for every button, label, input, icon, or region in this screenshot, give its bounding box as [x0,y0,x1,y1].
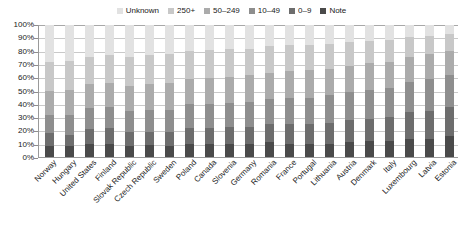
bar-segment [45,133,54,146]
bar-column[interactable] [85,25,94,157]
bar-segment [185,104,194,128]
bar-segment [145,132,154,145]
bar-segment [445,136,454,157]
bar-column[interactable] [445,25,454,157]
bar-segment [285,144,294,157]
bar-segment [445,34,454,51]
bar-segment [385,141,394,157]
bar-column[interactable] [405,25,414,157]
bar-column[interactable] [45,25,54,157]
bar-segment [245,25,254,49]
bar-column[interactable] [305,25,314,157]
bar-column[interactable] [325,25,334,157]
legend-item[interactable]: 50–249 [204,6,240,15]
bar-segment [405,57,414,82]
legend-swatch-icon [117,8,123,14]
legend-swatch-icon [320,8,326,14]
bar-segment [85,25,94,57]
y-tick-label: 70% [18,61,34,69]
bar-column[interactable] [125,25,134,157]
bar-segment [425,25,434,36]
bar-segment [345,42,354,66]
bar-segment [405,112,414,138]
legend-label: 250+ [177,6,195,15]
bar-segment [285,98,294,124]
legend-item[interactable]: 10–49 [249,6,280,15]
bar-segment [305,124,314,144]
bar-segment [365,90,374,119]
bar-segment [445,25,454,34]
y-tick-label: 10% [18,141,34,149]
bar-segment [105,83,114,107]
bar-segment [225,144,234,157]
y-tick-label: 50% [18,88,34,96]
bar-segment [165,146,174,157]
bar-segment [265,25,274,46]
bar-column[interactable] [425,25,434,157]
legend-item[interactable]: 250+ [168,6,195,15]
y-tick-label: 60% [18,74,34,82]
y-tick-label: 40% [18,101,34,109]
legend-label: Unknown [126,6,159,15]
bar-segment [45,91,54,115]
bar-segment [385,40,394,62]
bar-segment [165,110,174,132]
bar-column[interactable] [105,25,114,157]
bar-segment [265,124,274,142]
bar-segment [105,107,114,128]
bar-column[interactable] [165,25,174,157]
bar-segment [125,146,134,157]
bar-segment [265,99,274,124]
x-tick-label: Estonia [433,158,458,183]
bar-segment [245,127,254,144]
bar-column[interactable] [365,25,374,157]
bar-column[interactable] [265,25,274,157]
stacked-bar-chart: Unknown250+50–24910–490–9Note 0%10%20%30… [0,0,463,235]
bar-segment [65,135,74,147]
bar-segment [45,62,54,91]
bar-segment [385,117,394,141]
bar-segment [165,83,174,109]
bar-column[interactable] [185,25,194,157]
bar-segment [345,66,354,92]
bar-segment [125,57,134,86]
bar-segment [125,86,134,111]
bar-segment [165,54,174,83]
bar-column[interactable] [65,25,74,157]
bar-column[interactable] [245,25,254,157]
legend-item[interactable]: Unknown [117,6,159,15]
bar-column[interactable] [345,25,354,157]
bar-segment [205,128,214,144]
bar-column[interactable] [145,25,154,157]
bar-segment [145,84,154,109]
bar-segment [85,144,94,157]
legend-item[interactable]: Note [320,6,346,15]
bar-segment [445,107,454,136]
bar-segment [205,78,214,104]
bar-column[interactable] [285,25,294,157]
bar-segment [205,25,214,50]
bar-segment [85,57,94,85]
bar-segment [65,61,74,90]
bar-segment [385,62,394,88]
bar-segment [445,75,454,107]
legend-item[interactable]: 0–9 [289,6,311,15]
bar-column[interactable] [385,25,394,157]
bar-segment [145,55,154,84]
bar-segment [365,141,374,157]
bar-segment [45,25,54,62]
legend-swatch-icon [249,8,255,14]
bar-segment [85,108,94,129]
bar-segment [325,144,334,157]
bar-segment [185,79,194,104]
bar-column[interactable] [225,25,234,157]
bar-segment [225,49,234,77]
bar-segment [405,37,414,57]
y-tick-label: 30% [18,114,34,122]
bar-column[interactable] [205,25,214,157]
legend-swatch-icon [168,8,174,14]
bar-segment [305,98,314,124]
bar-segment [185,144,194,157]
bar-segment [145,110,154,132]
bar-segment [185,128,194,144]
